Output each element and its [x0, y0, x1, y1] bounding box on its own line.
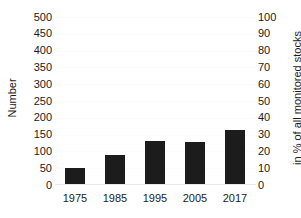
y-axis-left-tick-label: 400 [34, 45, 52, 56]
y-axis-right-tick-label: 40 [258, 112, 270, 123]
y-axis-left-tick-label: 0 [46, 180, 52, 191]
bar [225, 130, 245, 185]
plot-area [55, 17, 255, 185]
y-axis-right-tick-label: 20 [258, 146, 270, 157]
bar [65, 168, 85, 185]
bar-chart: Number in % of all monitored stocks 5004… [0, 0, 301, 218]
x-axis-tick-label: 2005 [175, 192, 215, 204]
y-axis-left-tick-label: 350 [34, 62, 52, 73]
x-axis-ticks: 19751985199520052017 [55, 192, 255, 210]
y-axis-left-tick-label: 200 [34, 112, 52, 123]
y-axis-right-tick-label: 0 [258, 180, 264, 191]
y-axis-left-tick-label: 300 [34, 79, 52, 90]
y-axis-right-tick-label: 30 [258, 129, 270, 140]
y-axis-left-tick-label: 250 [34, 96, 52, 107]
x-axis-tick-label: 1985 [95, 192, 135, 204]
x-axis-tick-label: 2017 [215, 192, 255, 204]
y-axis-right-tick-label: 60 [258, 79, 270, 90]
y-axis-left-tick-label: 450 [34, 28, 52, 39]
y-axis-right-tick-label: 70 [258, 62, 270, 73]
y-axis-left-title: Number [6, 63, 18, 133]
y-axis-right-tick-label: 80 [258, 45, 270, 56]
y-axis-left-tick-label: 100 [34, 146, 52, 157]
y-axis-right-tick-label: 50 [258, 96, 270, 107]
bar-series [55, 17, 255, 185]
y-axis-left-tick-label: 50 [40, 163, 52, 174]
y-axis-left-tick-label: 500 [34, 12, 52, 23]
bar [105, 155, 125, 185]
y-axis-left-tick-label: 150 [34, 129, 52, 140]
y-axis-left-ticks: 500450400350300250200150100500 [18, 0, 52, 218]
y-axis-right-tick-label: 100 [258, 12, 276, 23]
y-axis-right-ticks: 1009080706050403020100 [258, 0, 284, 218]
y-axis-right-tick-label: 90 [258, 28, 270, 39]
x-axis-tick-label: 1975 [55, 192, 95, 204]
bar [185, 142, 205, 185]
y-axis-right-title: in % of all monitored stocks [291, 13, 301, 183]
y-axis-right-tick-label: 10 [258, 163, 270, 174]
bar [145, 141, 165, 185]
x-axis-line [55, 184, 256, 185]
x-axis-tick-label: 1995 [135, 192, 175, 204]
